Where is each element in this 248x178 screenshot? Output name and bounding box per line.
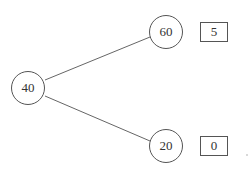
- payoff-box-upper: 5: [200, 22, 228, 42]
- edge-root-to-20: [45, 96, 150, 141]
- child-node-lower: 20: [149, 129, 183, 163]
- child-node-upper: 60: [149, 15, 183, 49]
- child-node-lower-label: 20: [160, 138, 173, 154]
- payoff-upper-value: 5: [211, 24, 218, 40]
- payoff-lower-value: 0: [211, 138, 218, 154]
- payoff-box-lower: 0: [200, 136, 228, 156]
- child-node-upper-label: 60: [160, 24, 173, 40]
- stray-dot: [246, 154, 248, 156]
- root-node: 40: [11, 71, 45, 105]
- edge-root-to-60: [45, 37, 150, 80]
- root-node-label: 40: [22, 80, 35, 96]
